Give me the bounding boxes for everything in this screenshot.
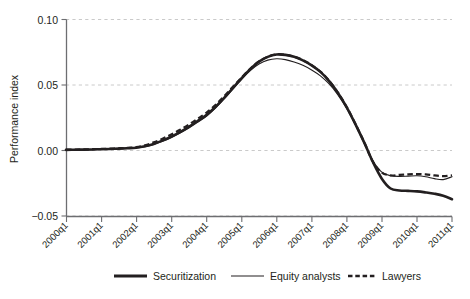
y-tick-label-1: 0.05: [38, 79, 59, 91]
y-tick-label-3: −0.05: [31, 210, 58, 222]
chart-figure: 0.10 0.05 0.00 −0.05 Performance index: [0, 0, 470, 299]
y-axis-title: Performance index: [8, 74, 20, 163]
legend-label-securitization: Securitization: [153, 270, 216, 282]
performance-index-line-chart: 0.10 0.05 0.00 −0.05 Performance index: [0, 0, 470, 299]
legend-label-lawyers: Lawyers: [382, 270, 421, 282]
y-tick-label-2: 0.00: [38, 145, 59, 157]
legend-label-equity-analysts: Equity analysts: [270, 270, 341, 282]
y-tick-label-0: 0.10: [38, 14, 59, 26]
